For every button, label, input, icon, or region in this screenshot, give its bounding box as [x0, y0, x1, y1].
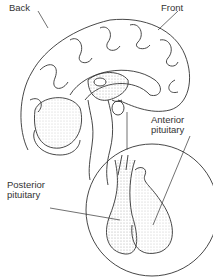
label-posterior-pituitary: Posterior pituitary	[7, 180, 45, 200]
pituitary-enlarged	[106, 155, 172, 254]
label-line: pituitary	[7, 190, 45, 200]
label-front: Front	[161, 3, 183, 13]
label-back: Back	[9, 3, 30, 13]
label-anterior-pituitary: Anterior pituitary	[151, 115, 184, 135]
brain-pituitary-diagram	[0, 0, 213, 280]
label-line: pituitary	[151, 125, 184, 135]
brain-outline	[21, 19, 190, 185]
